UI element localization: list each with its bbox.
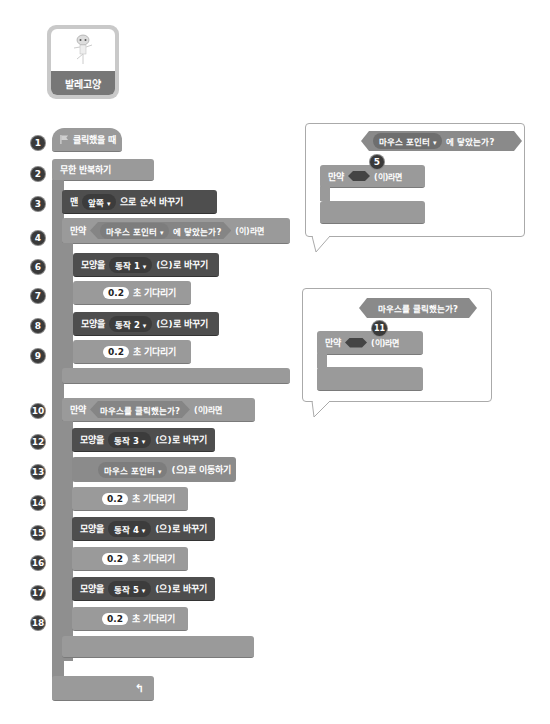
- if-bottom: [317, 367, 423, 391]
- switch-costume-block[interactable]: 모양을 동작 4 ▾ (으)로 바꾸기: [72, 517, 215, 541]
- switch-label: 모양을: [81, 317, 105, 330]
- wait-block[interactable]: 0.2 초 기다리기: [72, 487, 188, 511]
- sprite-thumbnail[interactable]: 발레고양: [47, 25, 119, 99]
- forever-block[interactable]: 무한 반복하기: [52, 159, 154, 181]
- if-mouse-down-block[interactable]: 만약 마우스를 클릭했는가? (이)라면: [62, 398, 255, 422]
- if-label: 만약: [70, 403, 86, 416]
- if-wall: [317, 354, 327, 368]
- wait-block[interactable]: 0.2 초 기다리기: [72, 547, 188, 571]
- switch-label: 모양을: [80, 522, 104, 535]
- sprite-name: 발레고양: [51, 71, 115, 95]
- step-marker: 13: [31, 465, 45, 479]
- switch-costume-block[interactable]: 모양을 동작 5 ▾ (으)로 바꾸기: [72, 577, 215, 601]
- layer-dropdown[interactable]: 앞쪽 ▾: [82, 194, 116, 210]
- switch-label: 모양을: [81, 258, 105, 271]
- switch-costume-block[interactable]: 모양을 동작 1 ▾ (으)로 바꾸기: [73, 253, 219, 277]
- wait-seconds-input[interactable]: 0.2: [103, 346, 129, 358]
- step-marker: 18: [31, 616, 45, 630]
- if-wall: [320, 187, 330, 201]
- touching-dropdown[interactable]: 마우스 포인터 ▾: [373, 133, 442, 149]
- switch-suffix: (으)로 바꾸기: [156, 317, 207, 330]
- condition-slot[interactable]: [345, 338, 367, 348]
- touching-sensor-block[interactable]: 마우스 포인터 ▾ 에 닿았는가?: [361, 131, 522, 151]
- wait-suffix: 초 기다리기: [132, 612, 175, 625]
- step-marker: 15: [31, 526, 45, 540]
- if-touching-block[interactable]: 만약 마우스 포인터 ▾ 에 닿았는가? (이)라면: [62, 218, 290, 244]
- switch-suffix: (으)로 바꾸기: [156, 258, 207, 271]
- step-marker: 8: [31, 319, 45, 333]
- touching-dropdown[interactable]: 마우스 포인터 ▾: [100, 223, 169, 239]
- costume-dropdown[interactable]: 동작 2 ▾: [109, 316, 152, 332]
- mouse-down-label: 마우스를 클릭했는가?: [100, 404, 180, 416]
- hat-label: 클릭했을 때: [73, 133, 116, 146]
- condition-slot[interactable]: [348, 171, 370, 181]
- step-marker: 1: [31, 136, 45, 150]
- then-label: (이)라면: [235, 225, 263, 236]
- wait-suffix: 초 기다리기: [133, 286, 176, 299]
- mouse-down-sensor-block[interactable]: 마우스를 클릭했는가?: [359, 298, 477, 318]
- wait-suffix: 초 기다리기: [132, 492, 175, 505]
- step-marker: 6: [31, 260, 45, 274]
- step-marker: 17: [31, 586, 45, 600]
- step-marker: 9: [31, 349, 45, 363]
- if1-bottom: [62, 368, 290, 384]
- mouse-down-label: 마우스를 클릭했는가?: [378, 302, 458, 314]
- if-label: 만약: [70, 224, 86, 237]
- switch-label: 모양을: [80, 582, 104, 595]
- go-to-front-block[interactable]: 맨 앞쪽 ▾ 으로 순서 바꾸기: [62, 190, 217, 214]
- go-to-block[interactable]: 마우스 포인터 ▾ (으)로 이동하기: [72, 457, 236, 482]
- costume-dropdown[interactable]: 동작 3 ▾: [108, 432, 151, 448]
- wait-suffix: 초 기다리기: [132, 552, 175, 565]
- wait-suffix: 초 기다리기: [133, 345, 176, 358]
- step-marker: 4: [31, 231, 45, 245]
- if-label: 만약: [328, 170, 344, 183]
- switch-label: 모양을: [80, 433, 104, 446]
- wait-seconds-input[interactable]: 0.2: [102, 613, 128, 625]
- if-block-template[interactable]: 만약 (이)라면: [317, 331, 423, 355]
- costume-dropdown[interactable]: 동작 1 ▾: [109, 257, 152, 273]
- wait-seconds-input[interactable]: 0.2: [102, 493, 128, 505]
- green-flag-icon: [60, 135, 69, 144]
- switch-suffix: (으)로 바꾸기: [155, 433, 206, 446]
- step-marker: 12: [31, 435, 45, 449]
- forever-bottom: ↰: [52, 676, 154, 701]
- step-marker: 11: [372, 321, 387, 336]
- step-marker: 7: [31, 289, 45, 303]
- touching-suffix: 에 닿았는가?: [173, 225, 221, 237]
- costume-dropdown[interactable]: 동작 4 ▾: [108, 521, 151, 537]
- callout-tail-icon: [310, 401, 340, 419]
- forever-label: 무한 반복하기: [60, 163, 111, 176]
- touching-suffix: 에 닿았는가?: [446, 135, 494, 147]
- switch-costume-block[interactable]: 모양을 동작 2 ▾ (으)로 바꾸기: [73, 312, 219, 336]
- when-flag-clicked-block[interactable]: 클릭했을 때: [52, 128, 122, 152]
- wait-seconds-input[interactable]: 0.2: [102, 553, 128, 565]
- goto-suffix: (으)로 이동하기: [171, 463, 230, 476]
- then-label: (이)라면: [194, 404, 222, 415]
- if-label: 만약: [325, 336, 341, 349]
- step-marker: 16: [31, 556, 45, 570]
- step-marker: 14: [31, 496, 45, 510]
- if1-wall: [62, 243, 73, 369]
- wait-seconds-input[interactable]: 0.2: [103, 287, 129, 299]
- if-block-template[interactable]: 만약 (이)라면: [320, 165, 425, 188]
- ballet-cat-icon: [51, 29, 115, 71]
- goto-target-dropdown[interactable]: 마우스 포인터 ▾: [98, 462, 167, 478]
- wait-block[interactable]: 0.2 초 기다리기: [72, 607, 188, 631]
- go-front-prefix: 맨: [70, 195, 78, 208]
- wait-block[interactable]: 0.2 초 기다리기: [73, 281, 191, 305]
- callout-tail-icon: [310, 236, 340, 254]
- touching-condition[interactable]: 마우스 포인터 ▾ 에 닿았는가?: [90, 222, 231, 239]
- switch-costume-block[interactable]: 모양을 동작 3 ▾ (으)로 바꾸기: [72, 428, 215, 452]
- then-label: (이)라면: [371, 337, 399, 348]
- step-marker: 2: [31, 167, 45, 181]
- step-marker: 3: [31, 197, 45, 211]
- costume-dropdown[interactable]: 동작 5 ▾: [108, 581, 151, 597]
- mouse-down-condition[interactable]: 마우스를 클릭했는가?: [90, 401, 190, 418]
- step-marker: 5: [370, 155, 384, 169]
- switch-suffix: (으)로 바꾸기: [155, 522, 206, 535]
- wait-block[interactable]: 0.2 초 기다리기: [73, 340, 191, 364]
- then-label: (이)라면: [374, 171, 402, 182]
- if-bottom: [320, 201, 425, 224]
- step-marker: 10: [31, 404, 45, 418]
- repeat-arrow-icon: ↰: [135, 682, 144, 695]
